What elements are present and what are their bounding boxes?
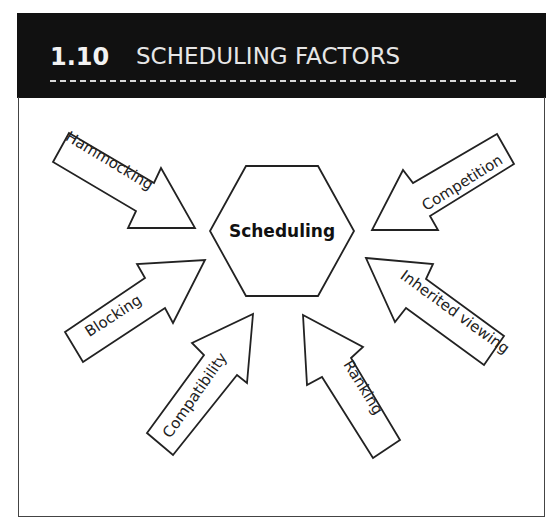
arrow-inherited-viewing — [366, 258, 504, 365]
arrow-ranking — [303, 315, 400, 458]
scheduling-diagram: Scheduling Hammocking Competition Blocki… — [0, 0, 556, 529]
center-label: Scheduling — [229, 221, 335, 241]
arrow-competition — [372, 134, 514, 230]
